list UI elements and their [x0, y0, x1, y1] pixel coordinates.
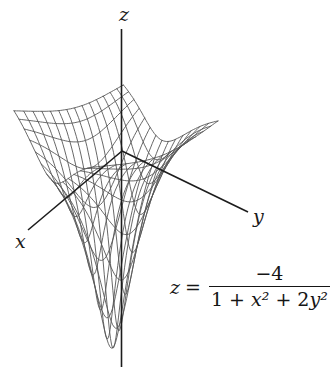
- denominator-plus-term: + 2: [269, 288, 309, 310]
- z-axis-label: z: [118, 3, 130, 25]
- x-axis-label: x: [15, 230, 26, 252]
- equation-denominator: 1 + x² + 2y²: [209, 287, 330, 310]
- mesh-line: [89, 103, 179, 294]
- mesh-line: [75, 108, 164, 348]
- mesh-line: [123, 85, 218, 142]
- equation-equals-sign: =: [185, 276, 201, 298]
- y-axis: [122, 151, 248, 212]
- equation-fraction: −4 1 + x² + 2y²: [209, 263, 330, 311]
- surface-plot-figure: x y z z = −4 1 + x² + 2y²: [0, 0, 333, 370]
- y-axis-label: y: [252, 205, 264, 227]
- mesh-line: [74, 131, 191, 202]
- mesh-line: [87, 123, 208, 169]
- equation-numerator: −4: [209, 263, 330, 287]
- mesh-line: [52, 140, 162, 348]
- mesh-line: [14, 111, 95, 184]
- mesh-line: [117, 89, 211, 160]
- denominator-y-term: y²: [309, 288, 327, 310]
- denominator-x-term: x²: [251, 288, 269, 310]
- wireframe-surface-canvas: x y z: [0, 0, 333, 370]
- mesh-line: [47, 135, 156, 317]
- mesh-line: [42, 111, 127, 242]
- denominator-constant-term: 1 +: [211, 288, 251, 310]
- equation-label: z = −4 1 + x² + 2y²: [170, 263, 330, 311]
- equation-lhs-variable: z: [170, 276, 180, 298]
